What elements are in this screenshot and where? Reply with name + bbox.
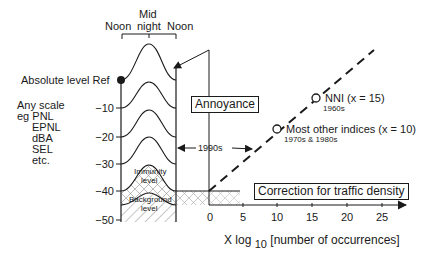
x-tick-10: 10	[267, 211, 287, 223]
time-label-noon-start: Noon	[105, 20, 131, 32]
time-bracket	[122, 34, 176, 39]
nni-label: NNI (x = 15)	[325, 92, 385, 104]
annoyance-box: Annoyance	[191, 96, 259, 113]
x-tick-20: 20	[337, 211, 357, 223]
x-axis-label-prefix: X log	[224, 233, 251, 247]
x-tick-0: 0	[200, 211, 220, 223]
tick-minus20: −20	[82, 131, 114, 143]
era-arrow-right	[232, 148, 252, 149]
tick-minus30: −30	[82, 158, 114, 170]
x-axis-label-sub: 10	[255, 238, 267, 250]
time-label-noon-end: Noon	[167, 20, 193, 32]
background-label: Background	[129, 195, 172, 204]
tick-minus40: −40	[82, 185, 114, 197]
left-ticks	[116, 108, 121, 220]
tick-minus10: −10	[82, 102, 114, 114]
tick-minus50: −50	[82, 214, 114, 226]
annoyance-arrow	[174, 50, 209, 68]
scale-note-line-6: etc.	[32, 154, 50, 166]
nni-point-icon	[312, 94, 320, 102]
x-axis-label-suffix: [number of occurrences]	[270, 233, 399, 247]
correction-box: Correction for traffic density	[254, 183, 409, 200]
x-axis-label: X log 10 [number of occurrences]	[224, 234, 400, 246]
immunity-label-2: level	[141, 176, 157, 185]
x-tick-15: 15	[302, 211, 322, 223]
x-tick-25: 25	[372, 211, 392, 223]
x-tick-5: 5	[233, 211, 253, 223]
ref-label: Absolute level Ref	[21, 74, 110, 86]
era-1990s-label: 1990s	[198, 144, 223, 153]
time-label-night: night	[137, 20, 161, 32]
other-indices-label: Most other indices (x = 10)	[286, 123, 416, 135]
background-label-2: level	[141, 204, 157, 213]
correction-dashed-line	[209, 50, 374, 191]
immunity-label: Immunity	[134, 167, 166, 176]
nni-era: 1960s	[323, 104, 345, 113]
other-indices-point-icon	[273, 125, 281, 133]
mid-label: Mid	[139, 8, 157, 20]
other-indices-era: 1970s & 1980s	[284, 135, 337, 144]
